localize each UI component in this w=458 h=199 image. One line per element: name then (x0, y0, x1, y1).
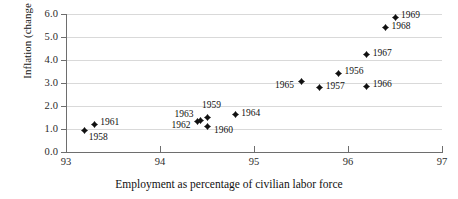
data-point-1961[interactable] (91, 121, 98, 128)
data-label-1957: 1957 (326, 82, 345, 92)
data-label-1963: 1963 (174, 110, 193, 120)
data-point-1966[interactable] (363, 83, 370, 90)
data-label-1968: 1968 (392, 22, 411, 32)
y-tick-label-6.0: 6.0 (28, 9, 58, 20)
data-label-1960: 1960 (214, 126, 233, 136)
data-point-1967[interactable] (363, 51, 370, 58)
data-label-1964: 1964 (241, 109, 260, 119)
data-point-1964[interactable] (232, 111, 239, 118)
gridline-y-1.0 (66, 129, 442, 130)
y-tick-1.0 (61, 129, 67, 130)
y-tick-label-5.0: 5.0 (28, 32, 58, 43)
x-tick-97 (442, 146, 443, 153)
y-tick-label-1.0: 1.0 (28, 124, 58, 135)
data-point-1960[interactable] (204, 123, 211, 130)
data-label-1966: 1966 (373, 80, 392, 90)
data-label-1958: 1958 (89, 133, 108, 143)
y-tick-2.0 (61, 106, 67, 107)
x-tick-93 (66, 146, 67, 153)
y-tick-3.0 (61, 83, 67, 84)
x-tick-96 (348, 146, 349, 153)
gridline-y-5.0 (66, 37, 442, 38)
gridline-y-4.0 (66, 60, 442, 61)
y-tick-label-0.0: 0.0 (28, 147, 58, 158)
data-point-1968[interactable] (382, 24, 389, 31)
x-tick-label-96: 96 (335, 157, 361, 168)
y-tick-6.0 (61, 14, 67, 15)
data-point-1965[interactable] (298, 78, 305, 85)
data-label-1961: 1961 (100, 118, 119, 128)
data-label-1959: 1959 (202, 101, 221, 111)
data-label-1965: 1965 (275, 81, 294, 91)
data-point-1959[interactable] (204, 114, 211, 121)
gridline-y-6.0 (66, 14, 442, 15)
x-tick-label-95: 95 (241, 157, 267, 168)
data-point-1958[interactable] (81, 127, 88, 134)
gridline-y-2.0 (66, 106, 442, 107)
x-tick-95 (254, 146, 255, 153)
data-label-1967: 1967 (373, 49, 392, 59)
data-point-1957[interactable] (316, 84, 323, 91)
x-tick-label-93: 93 (53, 157, 79, 168)
data-label-1956: 1956 (345, 67, 364, 77)
y-tick-5.0 (61, 37, 67, 38)
y-tick-label-2.0: 2.0 (28, 101, 58, 112)
x-tick-94 (160, 146, 161, 153)
y-tick-4.0 (61, 60, 67, 61)
data-point-1956[interactable] (335, 70, 342, 77)
y-tick-label-4.0: 4.0 (28, 55, 58, 66)
x-tick-label-97: 97 (429, 157, 455, 168)
data-label-1969: 1969 (401, 11, 420, 21)
data-point-1969[interactable] (392, 14, 399, 21)
data-label-1962: 1962 (172, 121, 191, 131)
x-tick-label-94: 94 (147, 157, 173, 168)
scatter-chart: Inflation (change in CPI) 0.01.02.03.04.… (0, 0, 458, 199)
x-axis-title: Employment as percentage of civilian lab… (0, 178, 458, 190)
data-point-1963[interactable] (197, 117, 204, 124)
y-tick-label-3.0: 3.0 (28, 78, 58, 89)
